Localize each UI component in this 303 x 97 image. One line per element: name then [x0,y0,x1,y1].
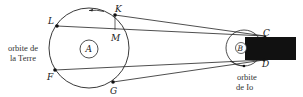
label-k: K [114,4,123,14]
label-g: G [110,86,117,96]
label-d: D [261,59,269,69]
point-l [55,24,59,28]
earth-orbit-caption-2: la Terre [10,53,36,63]
label-c: C [263,28,270,38]
line-k-c [115,15,265,36]
io-eclipse-diagram: L K M F G A B C D orbite de la Terre orb… [0,0,303,97]
io-orbit-caption-2: de Io [236,82,253,92]
jupiter-shadow [245,37,296,60]
label-l: L [47,16,54,26]
earth-orbit-caption-1: orbite de [8,43,38,53]
point-f [53,68,57,72]
label-f: F [46,72,54,82]
point-g [111,80,115,84]
io-orbit-caption-1: orbite [237,72,257,82]
label-m: M [110,33,121,43]
io-point [243,65,246,68]
line-l-c [57,26,265,36]
label-b: B [237,44,244,53]
label-a: A [85,44,93,54]
